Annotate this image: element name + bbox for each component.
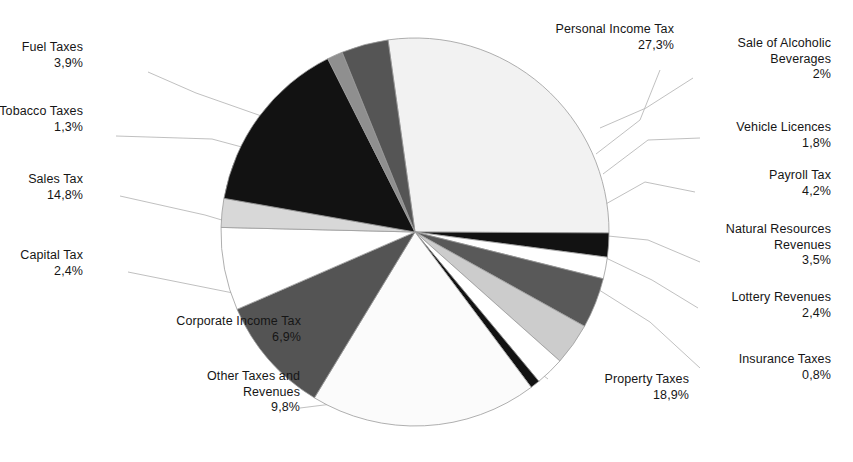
label-personal-income-tax: Personal Income Tax 27,3% xyxy=(500,22,674,53)
label-sales-tax: Sales Tax 14,8% xyxy=(0,172,83,203)
label-other-taxes-line1: Other Taxes and xyxy=(54,369,300,385)
label-personal-income-tax-name: Personal Income Tax xyxy=(500,22,674,38)
label-payroll-tax-pct: 4,2% xyxy=(679,184,831,200)
label-lottery-revenues-pct: 2,4% xyxy=(659,306,831,322)
label-sale-of-alcoholic-beverages: Sale of Alcoholic Beverages 2% xyxy=(679,36,831,83)
label-fuel-taxes-name: Fuel Taxes xyxy=(0,40,83,56)
pie-slices-group xyxy=(221,38,609,426)
label-sales-tax-pct: 14,8% xyxy=(0,188,83,204)
label-lottery-revenues-name: Lottery Revenues xyxy=(659,290,831,306)
leader-line-personal-income xyxy=(596,70,660,154)
label-property-taxes-pct: 18,9% xyxy=(557,388,689,404)
label-vehicle-licences-pct: 1,8% xyxy=(679,136,831,152)
label-personal-income-tax-pct: 27,3% xyxy=(500,38,674,54)
label-sale-alcoholic-pct: 2% xyxy=(679,67,831,83)
label-capital-tax: Capital Tax 2,4% xyxy=(0,248,83,279)
label-capital-tax-name: Capital Tax xyxy=(0,248,83,264)
label-sales-tax-name: Sales Tax xyxy=(0,172,83,188)
label-payroll-tax: Payroll Tax 4,2% xyxy=(679,168,831,199)
label-other-taxes-and-revenues: Other Taxes and Revenues 9,8% xyxy=(54,369,300,416)
label-tobacco-taxes: Tobacco Taxes 1,3% xyxy=(0,104,83,135)
label-lottery-revenues: Lottery Revenues 2,4% xyxy=(659,290,831,321)
pie-chart-figure: Fuel Taxes 3,9% Tobacco Taxes 1,3% Sales… xyxy=(0,0,853,462)
label-natural-resources-line2: Revenues xyxy=(659,238,831,254)
label-natural-resources-line1: Natural Resources xyxy=(659,222,831,238)
label-natural-resources-pct: 3,5% xyxy=(659,253,831,269)
label-fuel-taxes-pct: 3,9% xyxy=(0,56,83,72)
label-other-taxes-pct: 9,8% xyxy=(54,400,300,416)
label-insurance-taxes: Insurance Taxes 0,8% xyxy=(659,352,831,383)
label-corporate-income-tax: Corporate Income Tax 6,9% xyxy=(55,314,301,345)
label-vehicle-licences: Vehicle Licences 1,8% xyxy=(679,120,831,151)
label-capital-tax-pct: 2,4% xyxy=(0,264,83,280)
label-natural-resources-revenues: Natural Resources Revenues 3,5% xyxy=(659,222,831,269)
label-insurance-taxes-name: Insurance Taxes xyxy=(659,352,831,368)
label-insurance-taxes-pct: 0,8% xyxy=(659,368,831,384)
label-corporate-income-tax-name: Corporate Income Tax xyxy=(55,314,301,330)
label-sale-alcoholic-line2: Beverages xyxy=(679,52,831,68)
label-tobacco-taxes-name: Tobacco Taxes xyxy=(0,104,83,120)
label-sale-alcoholic-line1: Sale of Alcoholic xyxy=(679,36,831,52)
label-fuel-taxes: Fuel Taxes 3,9% xyxy=(0,40,83,71)
label-tobacco-taxes-pct: 1,3% xyxy=(0,120,83,136)
label-vehicle-licences-name: Vehicle Licences xyxy=(679,120,831,136)
label-corporate-income-tax-pct: 6,9% xyxy=(55,330,301,346)
pie-slice xyxy=(388,38,609,233)
label-other-taxes-line2: Revenues xyxy=(54,385,300,401)
label-payroll-tax-name: Payroll Tax xyxy=(679,168,831,184)
